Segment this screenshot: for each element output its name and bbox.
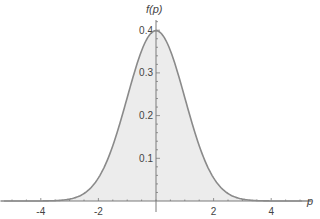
x-tick-label: -4	[36, 206, 45, 217]
y-tick-label: 0.2	[139, 110, 153, 121]
x-tick-label: -2	[94, 206, 103, 217]
x-tick-label: 2	[211, 206, 217, 217]
y-axis-label: f(p)	[146, 3, 163, 15]
y-tick-label: 0.1	[139, 153, 153, 164]
normal-density-chart: -4-224 0.10.20.30.4 p f(p)	[0, 0, 320, 219]
x-axis-label: p	[306, 195, 313, 207]
x-tick-label: 4	[268, 206, 274, 217]
y-tick-label: 0.3	[139, 67, 153, 78]
